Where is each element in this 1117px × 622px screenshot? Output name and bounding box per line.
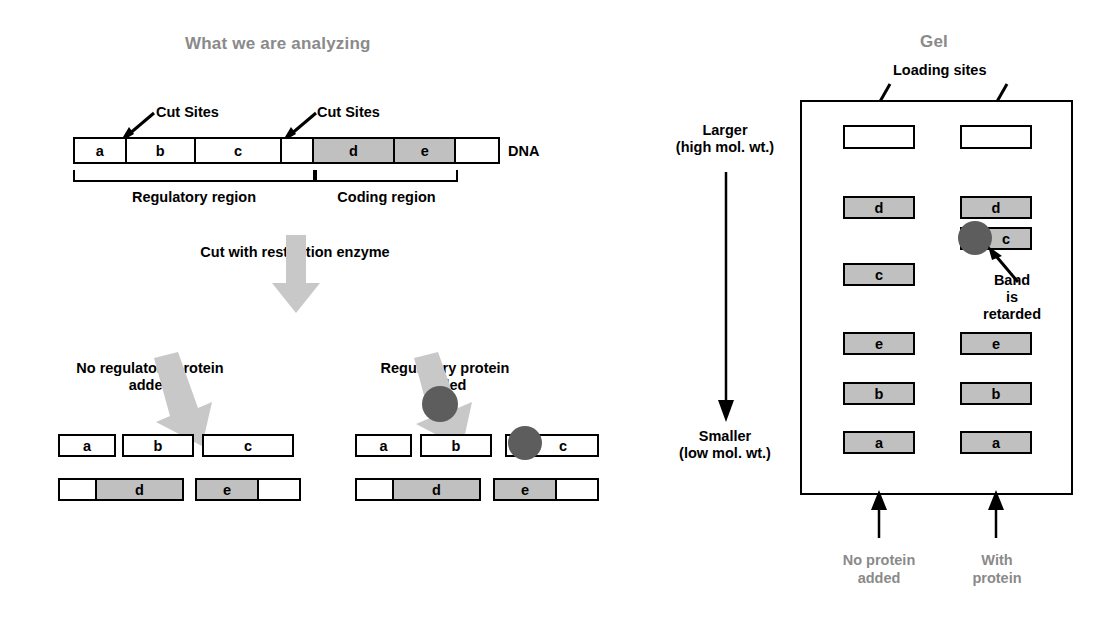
fragment-a-no-protein-label: a xyxy=(60,436,114,455)
lane1-caption-line1: No protein xyxy=(819,552,939,570)
fragment-e-with-protein-label: e xyxy=(495,480,555,499)
regulatory-region-bracket xyxy=(73,170,315,182)
gel-lane2-loading-well xyxy=(960,125,1032,149)
regulatory-region-label: Regulatory region xyxy=(73,189,315,206)
fragment-a-no-protein: a xyxy=(58,434,116,457)
dna-label: DNA xyxy=(508,143,539,160)
fragment-b-no-protein-label: b xyxy=(124,436,192,455)
band-retarded-label: Band is retarded xyxy=(962,272,1062,323)
smaller-label-line2: (low mol. wt.) xyxy=(660,445,790,462)
band-retarded-line1: Band xyxy=(962,272,1062,289)
dna-strand: a b c d e xyxy=(73,137,500,164)
gel-lane1-band-e: e xyxy=(843,332,915,355)
gel-lane2-band-e: e xyxy=(960,332,1032,355)
fragment-d-no-protein-flank xyxy=(60,480,95,499)
gel-lane1-band-b: b xyxy=(843,382,915,405)
regulatory-protein-blob-icon xyxy=(422,386,458,422)
smaller-label: Smaller (low mol. wt.) xyxy=(660,428,790,462)
larger-label: Larger (high mol. wt.) xyxy=(660,122,790,156)
fragment-d-no-protein: d xyxy=(58,478,184,501)
larger-label-line1: Larger xyxy=(660,122,790,139)
fragment-a-with-protein: a xyxy=(355,434,412,457)
loading-sites-label: Loading sites xyxy=(893,62,986,79)
protein-bound-fragment-c-blob-icon xyxy=(508,426,542,460)
fragment-d-with-protein-flank xyxy=(357,480,392,499)
coding-region-bracket xyxy=(315,170,458,182)
dna-segment-spacer-2 xyxy=(456,139,498,162)
fragment-c-no-protein-label: c xyxy=(204,436,292,455)
fragment-c-no-protein: c xyxy=(202,434,294,457)
fragment-e-with-protein: e xyxy=(493,478,599,501)
fragment-b-no-protein: b xyxy=(122,434,194,457)
left-panel-title: What we are analyzing xyxy=(185,34,371,54)
band-retarded-line3: retarded xyxy=(962,306,1062,323)
gel-lane1-band-c: c xyxy=(843,263,915,286)
cut-sites-label-1: Cut Sites xyxy=(156,104,219,121)
gel-lane1-band-d: d xyxy=(843,196,915,219)
gel-panel-title: Gel xyxy=(920,32,948,52)
smaller-label-line1: Smaller xyxy=(660,428,790,445)
dna-segment-a: a xyxy=(75,139,127,162)
dna-segment-d: d xyxy=(314,139,395,162)
fragment-d-with-protein-label: d xyxy=(392,480,479,499)
lane1-caption: No protein added xyxy=(819,552,939,587)
lane1-caption-line2: added xyxy=(819,570,939,588)
gel-lane1-loading-well xyxy=(843,125,915,149)
lane2-load-arrow-icon xyxy=(988,490,1004,538)
dna-segment-c: c xyxy=(196,139,282,162)
fragment-e-no-protein-flank xyxy=(257,480,299,499)
fragment-d-with-protein: d xyxy=(355,478,481,501)
band-retarded-line2: is xyxy=(962,289,1062,306)
migration-direction-arrow-icon xyxy=(718,172,734,422)
fragment-a-with-protein-label: a xyxy=(357,436,410,455)
larger-label-line2: (high mol. wt.) xyxy=(660,139,790,156)
lane2-caption-line1: With xyxy=(942,552,1052,570)
cut-sites-label-2: Cut Sites xyxy=(317,104,380,121)
lane2-caption-line2: protein xyxy=(942,570,1052,588)
coding-region-label: Coding region xyxy=(315,189,458,206)
fragment-e-no-protein-label: e xyxy=(197,480,257,499)
dna-segment-spacer-1 xyxy=(282,139,314,162)
fragment-d-no-protein-label: d xyxy=(95,480,182,499)
fragment-b-with-protein: b xyxy=(420,434,492,457)
gel-lane2-band-a: a xyxy=(960,431,1032,454)
gel-lane2-band-d: d xyxy=(960,196,1032,219)
dna-segment-e: e xyxy=(395,139,456,162)
lane2-caption: With protein xyxy=(942,552,1052,587)
gel-lane1-band-a: a xyxy=(843,431,915,454)
fragment-b-with-protein-label: b xyxy=(422,436,490,455)
lane1-load-arrow-icon xyxy=(871,490,887,538)
fragment-e-no-protein: e xyxy=(195,478,301,501)
restriction-enzyme-arrow-icon xyxy=(270,235,322,315)
dna-segment-b: b xyxy=(127,139,196,162)
fragment-e-with-protein-flank xyxy=(555,480,597,499)
gel-lane2-band-b: b xyxy=(960,382,1032,405)
